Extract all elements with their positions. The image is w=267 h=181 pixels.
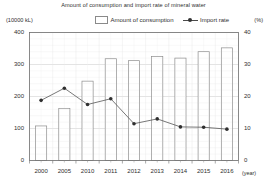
x-axis-unit-label: (year) [242, 170, 256, 176]
right-tick-0: 0 [244, 157, 264, 163]
line-point-2012 [132, 122, 136, 126]
line-point-2014 [179, 125, 183, 129]
line-point-2005 [63, 86, 67, 90]
bar-series [36, 48, 233, 161]
x-tick-2016: 2016 [220, 168, 233, 174]
x-tick-2010: 2010 [81, 168, 94, 174]
left-tick-400: 400 [4, 29, 24, 35]
bar-2016 [221, 48, 232, 161]
x-tick-2011: 2011 [104, 168, 117, 174]
bar-2005 [59, 108, 70, 160]
line-point-2011 [109, 97, 113, 101]
plot-area [0, 0, 267, 181]
bar-2015 [198, 52, 209, 161]
x-tick-2000: 2000 [34, 168, 47, 174]
bar-2000 [36, 126, 47, 161]
bar-2013 [152, 57, 163, 161]
x-tick-2005: 2005 [58, 168, 71, 174]
line-point-2010 [86, 103, 90, 107]
bar-2012 [128, 61, 139, 161]
x-tick-2015: 2015 [197, 168, 210, 174]
x-tick-2014: 2014 [174, 168, 187, 174]
x-tick-2012: 2012 [127, 168, 140, 174]
line-point-2015 [202, 125, 206, 129]
bar-2011 [105, 59, 116, 161]
left-tick-100: 100 [4, 125, 24, 131]
right-tick-20: 20 [244, 93, 264, 99]
line-point-2000 [39, 99, 43, 103]
right-tick-30: 30 [244, 61, 264, 67]
x-axis-tick-marks [30, 161, 239, 164]
left-tick-0: 0 [4, 157, 24, 163]
bar-2010 [82, 81, 93, 160]
mineral-water-chart: Amount of consumption and import rate of… [0, 0, 267, 181]
right-tick-40: 40 [244, 29, 264, 35]
x-tick-2013: 2013 [151, 168, 164, 174]
line-point-2013 [155, 117, 159, 121]
line-point-2016 [225, 127, 229, 131]
left-tick-200: 200 [4, 93, 24, 99]
left-tick-300: 300 [4, 61, 24, 67]
right-tick-10: 10 [244, 125, 264, 131]
